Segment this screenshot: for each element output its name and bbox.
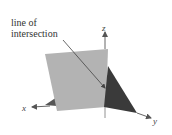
y-axis: [137, 113, 151, 118]
intersecting-planes-diagram: line of intersection z x y: [0, 0, 172, 135]
x-axis: [32, 106, 50, 107]
annotation-line2: intersection: [11, 28, 58, 39]
x-axis-label: x: [21, 103, 26, 113]
dark-plane: [104, 66, 137, 113]
y-axis-label: y: [152, 116, 157, 126]
z-axis-label: z: [101, 23, 106, 33]
annotation-line1: line of: [11, 17, 37, 28]
